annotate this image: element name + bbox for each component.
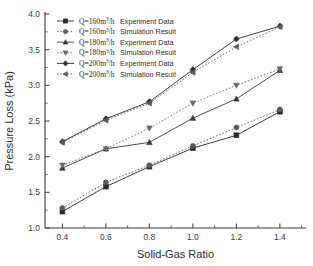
marker-circle (147, 163, 152, 168)
legend-kind-label: Simulation Result (120, 48, 176, 57)
chart-legend: Q=160m3/hExperiment DataQ=160m3/hSimulat… (57, 16, 176, 79)
x-tick-label: 1.4 (274, 232, 286, 242)
y-tick-label: 2.0 (28, 152, 40, 162)
series-line (62, 70, 280, 168)
y-axis-title: Pressure Loss (kPa) (3, 71, 15, 171)
marker-circle (60, 206, 65, 211)
marker-triangle-left (63, 72, 67, 77)
legend-flow-label: Q=180m3/h (79, 48, 115, 58)
marker-diamond (63, 61, 68, 66)
marker-circle (190, 143, 195, 148)
chart-figure: 1.01.52.02.53.03.54.00.40.60.81.01.21.4S… (0, 0, 313, 266)
x-tick-label: 1.0 (187, 232, 199, 242)
series-180-simulation (60, 67, 283, 168)
marker-circle (234, 125, 239, 130)
y-tick-label: 1.5 (28, 187, 40, 197)
legend-flow-label: Q=200m3/h (79, 58, 115, 68)
marker-diamond (234, 36, 240, 42)
marker-triangle-down (234, 83, 240, 88)
pressure-loss-line-chart: 1.01.52.02.53.03.54.00.40.60.81.01.21.4S… (0, 0, 313, 266)
y-tick-label: 4.0 (28, 9, 40, 19)
marker-triangle-up (147, 140, 153, 145)
marker-triangle-left (234, 44, 239, 50)
x-tick-label: 1.2 (230, 232, 242, 242)
marker-triangle-down (190, 101, 196, 106)
marker-triangle-down (147, 126, 153, 131)
marker-circle (63, 29, 67, 33)
x-tick-label: 0.4 (56, 232, 68, 242)
marker-circle (103, 180, 108, 185)
x-tick-label: 0.6 (100, 232, 112, 242)
x-tick-label: 0.8 (143, 232, 155, 242)
marker-square (234, 133, 239, 138)
marker-triangle-up (234, 96, 240, 101)
series-line (62, 69, 280, 165)
x-axis-title: Solid-Gas Ratio (137, 248, 214, 260)
y-tick-label: 3.5 (28, 45, 40, 55)
legend-kind-label: Simulation Result (120, 27, 176, 36)
marker-circle (277, 107, 282, 112)
legend-flow-label: Q=160m3/h (79, 27, 115, 37)
series-160-simulation (60, 107, 282, 210)
legend-flow-label: Q=180m3/h (79, 37, 115, 47)
legend-flow-label: Q=160m3/h (79, 16, 115, 26)
y-tick-label: 2.5 (28, 116, 40, 126)
series-line (62, 112, 280, 212)
y-tick-label: 3.0 (28, 80, 40, 90)
legend-kind-label: Experiment Data (120, 17, 174, 26)
legend-flow-label: Q=200m3/h (79, 69, 115, 79)
legend-kind-label: Experiment Data (120, 59, 174, 68)
legend-kind-label: Simulation Result (120, 70, 176, 79)
series-180-experiment (60, 67, 283, 170)
marker-square (63, 19, 67, 23)
y-tick-label: 1.0 (28, 223, 40, 233)
legend-kind-label: Experiment Data (120, 38, 174, 47)
